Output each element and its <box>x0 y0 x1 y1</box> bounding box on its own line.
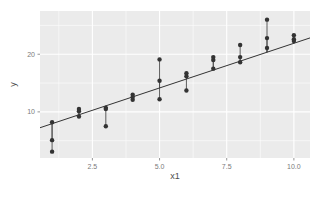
data-point <box>265 36 269 40</box>
y-tick-label: 20 <box>27 51 35 58</box>
data-point <box>130 98 134 102</box>
data-point <box>211 66 215 70</box>
data-point <box>211 58 215 62</box>
data-point <box>157 57 161 61</box>
data-point <box>104 124 108 128</box>
data-point <box>77 109 81 113</box>
data-point <box>157 79 161 83</box>
data-point <box>184 88 188 92</box>
y-axis-ticks: 1020 <box>27 51 40 116</box>
data-point <box>77 114 81 118</box>
x-axis-ticks: 2.55.07.510.0 <box>88 158 301 170</box>
y-tick-label: 10 <box>27 108 35 115</box>
x-tick-label: 10.0 <box>287 163 301 170</box>
x-tick-label: 5.0 <box>155 163 165 170</box>
plot-panel-background <box>40 11 310 158</box>
data-point <box>50 149 54 153</box>
data-point <box>265 46 269 50</box>
scatter-plot: 2.55.07.510.0 1020 x1 y <box>0 0 324 197</box>
data-point <box>292 33 296 37</box>
x-axis-title: x1 <box>170 171 180 181</box>
y-axis-title: y <box>8 82 18 87</box>
data-point <box>238 43 242 47</box>
data-point <box>292 39 296 43</box>
data-point <box>50 120 54 124</box>
data-point <box>157 97 161 101</box>
chart-container: 2.55.07.510.0 1020 x1 y <box>0 0 324 197</box>
data-point <box>238 60 242 64</box>
data-point <box>184 74 188 78</box>
x-tick-label: 7.5 <box>222 163 232 170</box>
data-point <box>265 17 269 21</box>
data-point <box>104 107 108 111</box>
data-point <box>238 55 242 59</box>
data-point <box>50 138 54 142</box>
x-tick-label: 2.5 <box>88 163 98 170</box>
